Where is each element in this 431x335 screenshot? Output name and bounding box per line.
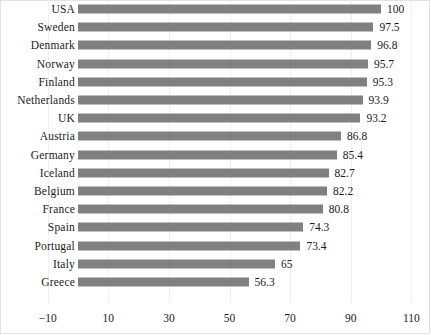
category-label: Greece: [41, 276, 75, 288]
x-tick-label: 10: [103, 312, 115, 324]
bar: [78, 205, 323, 214]
value-label: 80.8: [329, 203, 349, 215]
bar-row: Italy65: [0, 255, 431, 273]
value-label: 74.3: [309, 221, 329, 233]
bar: [78, 168, 329, 177]
bar: [78, 277, 249, 286]
value-label: 97.5: [379, 21, 399, 33]
bar-row: France80.8: [0, 200, 431, 218]
value-label: 86.8: [347, 130, 367, 142]
category-label: Germany: [31, 149, 75, 161]
bar: [78, 77, 367, 86]
category-label: Spain: [48, 221, 75, 233]
x-tick-label: 70: [284, 312, 296, 324]
bar: [78, 223, 303, 232]
bar-row: Sweden97.5: [0, 18, 431, 36]
bar-row: Netherlands93.9: [0, 91, 431, 109]
bar: [78, 241, 300, 250]
value-label: 93.9: [369, 94, 389, 106]
bar: [78, 41, 371, 50]
category-label: Denmark: [31, 39, 75, 51]
bar: [78, 59, 368, 68]
value-label: 56.3: [255, 276, 275, 288]
bar: [78, 150, 337, 159]
bar-row: Belgium82.2: [0, 182, 431, 200]
category-label: UK: [58, 112, 75, 124]
bar: [78, 186, 327, 195]
x-tick-label: 90: [345, 312, 357, 324]
bar-rows: USA100Sweden97.5Denmark96.8Norway95.7Fin…: [0, 0, 431, 291]
category-label: USA: [51, 3, 75, 15]
category-label: Netherlands: [17, 94, 75, 106]
value-label: 95.3: [373, 76, 393, 88]
value-label: 82.7: [335, 167, 355, 179]
category-label: Austria: [40, 130, 75, 142]
category-label: France: [43, 203, 76, 215]
bar: [78, 132, 341, 141]
bar-row: Portugal73.4: [0, 236, 431, 254]
value-label: 95.7: [374, 58, 394, 70]
category-label: Finland: [38, 76, 75, 88]
x-axis: −101030507090110: [0, 306, 431, 334]
x-tick-label: 30: [163, 312, 175, 324]
category-label: Italy: [53, 258, 75, 270]
value-label: 93.2: [366, 112, 386, 124]
category-label: Norway: [37, 58, 75, 70]
bar: [78, 23, 373, 32]
value-label: 82.2: [333, 185, 353, 197]
bar-row: Spain74.3: [0, 218, 431, 236]
bar-row: Denmark96.8: [0, 36, 431, 54]
bar: [78, 259, 275, 268]
bar: [78, 114, 360, 123]
bar-row: Austria86.8: [0, 127, 431, 145]
value-label: 65: [281, 258, 293, 270]
bar-row: Iceland82.7: [0, 164, 431, 182]
x-tick-label: 50: [224, 312, 236, 324]
value-label: 73.4: [306, 240, 326, 252]
value-label: 96.8: [377, 39, 397, 51]
bar-row: Greece56.3: [0, 273, 431, 291]
bar-row: Germany85.4: [0, 146, 431, 164]
bar-row: Finland95.3: [0, 73, 431, 91]
category-label: Sweden: [37, 21, 75, 33]
x-tick-label: 110: [403, 312, 420, 324]
value-label: 85.4: [343, 149, 363, 161]
bar-row: UK93.2: [0, 109, 431, 127]
bar: [78, 5, 381, 14]
bar-row: Norway95.7: [0, 55, 431, 73]
category-label: Belgium: [34, 185, 75, 197]
bar-chart: USA100Sweden97.5Denmark96.8Norway95.7Fin…: [0, 0, 431, 335]
category-label: Portugal: [34, 240, 75, 252]
bar: [78, 96, 363, 105]
bar-row: USA100: [0, 0, 431, 18]
category-label: Iceland: [40, 167, 75, 179]
value-label: 100: [387, 3, 404, 15]
x-tick-label: −10: [39, 312, 57, 324]
